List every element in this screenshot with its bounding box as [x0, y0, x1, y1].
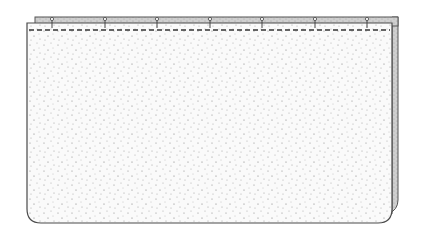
front-panel-texture — [27, 23, 392, 223]
panel-diagram — [0, 0, 425, 238]
